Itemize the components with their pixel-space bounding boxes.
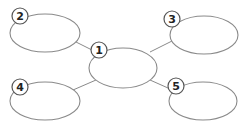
- spider-map-diagram: 2 3 1 4 5: [0, 0, 239, 123]
- node-1-label: 1: [95, 44, 103, 57]
- edge-1-3: [150, 41, 172, 52]
- node-2-label: 2: [16, 10, 24, 23]
- node-3-ellipse: [170, 16, 238, 54]
- node-4-label: 4: [16, 81, 24, 94]
- node-5-label: 5: [172, 80, 180, 93]
- edge-1-4: [73, 80, 96, 90]
- edge-1-5: [150, 80, 168, 88]
- node-3-label: 3: [168, 13, 176, 26]
